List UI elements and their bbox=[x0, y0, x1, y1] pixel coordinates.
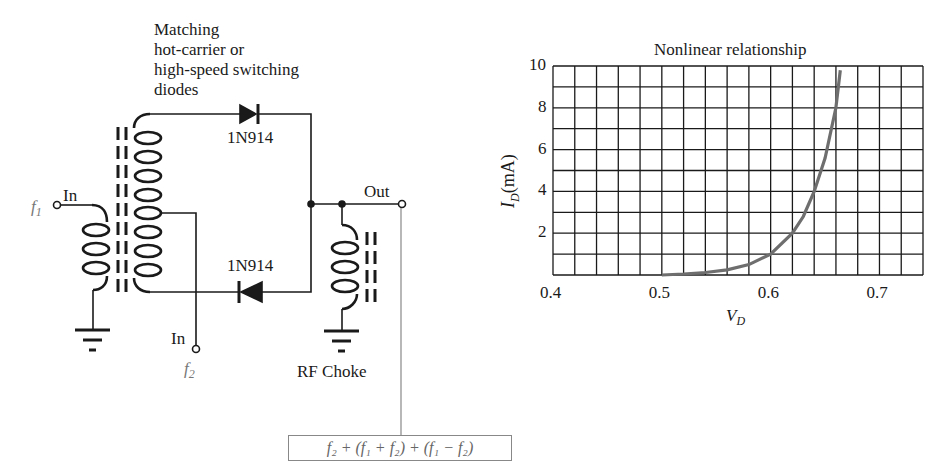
y-tick-label: 6 bbox=[538, 139, 547, 159]
diode-top-label: 1N914 bbox=[227, 128, 273, 148]
input1-label: In bbox=[63, 186, 77, 206]
diode-bottom-icon bbox=[241, 282, 262, 302]
input1-signal-sub: 1 bbox=[36, 205, 42, 219]
rf-choke-coil bbox=[332, 225, 358, 309]
input2-signal: f2 bbox=[184, 359, 195, 382]
output-formula-box: f₂ + (f₁ + f₂) + (f₁ − f₂) bbox=[288, 435, 512, 461]
y-axis-label: ID(mA) bbox=[498, 154, 523, 208]
chart-title: Nonlinear relationship bbox=[654, 40, 807, 60]
circuit-schematic bbox=[0, 0, 945, 464]
annotation-line-1: Matching bbox=[154, 20, 299, 40]
output-terminal bbox=[399, 201, 406, 208]
input1-signal: f1 bbox=[31, 197, 42, 220]
input2-signal-sub: 2 bbox=[189, 367, 195, 381]
x-tick-label: 0.4 bbox=[540, 283, 561, 303]
rf-choke-label: RF Choke bbox=[297, 362, 366, 382]
chart-grid bbox=[553, 66, 923, 275]
transformer-core bbox=[118, 127, 126, 292]
y-tick-label: 8 bbox=[538, 97, 547, 117]
ground-symbol-1 bbox=[75, 330, 110, 350]
primary-coil bbox=[83, 205, 109, 290]
input2-label: In bbox=[171, 329, 185, 349]
y-tick-label: 2 bbox=[538, 222, 547, 242]
diode-top-icon bbox=[240, 105, 256, 123]
annotation-line-4: diodes bbox=[154, 80, 299, 100]
input-f1-terminal bbox=[54, 202, 61, 209]
input-f2-terminal bbox=[193, 346, 200, 353]
y-tick-label: 10 bbox=[529, 55, 546, 75]
annotation-line-3: high-speed switching bbox=[154, 60, 299, 80]
x-tick-label: 0.6 bbox=[758, 283, 779, 303]
annotation-line-2: hot-carrier or bbox=[154, 40, 299, 60]
x-tick-label: 0.5 bbox=[649, 283, 670, 303]
diode-annotation: Matching hot-carrier or high-speed switc… bbox=[154, 20, 299, 100]
x-axis-label: VD bbox=[726, 306, 745, 329]
rf-choke-core bbox=[367, 232, 375, 308]
ground-symbol-2 bbox=[324, 331, 359, 351]
x-tick-label: 0.7 bbox=[866, 283, 887, 303]
y-tick-label: 4 bbox=[538, 180, 547, 200]
secondary-coil bbox=[134, 114, 161, 292]
output-label: Out bbox=[364, 182, 390, 202]
diode-bottom-label: 1N914 bbox=[227, 256, 273, 276]
chart-curve bbox=[662, 70, 841, 275]
